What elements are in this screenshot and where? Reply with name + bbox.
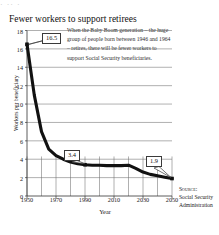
callout-1-9: 1.9 (146, 156, 162, 167)
source-label: Source: (179, 186, 197, 192)
source-note: Source: Social Security Administration (179, 186, 219, 210)
source-name: Social Security Administration (179, 194, 213, 208)
callout-16-5: 16.5 (42, 33, 61, 44)
callout-3-4: 3.4 (64, 150, 80, 161)
chart-figure: · ·· · Fewer workers to support retirees… (0, 0, 219, 235)
